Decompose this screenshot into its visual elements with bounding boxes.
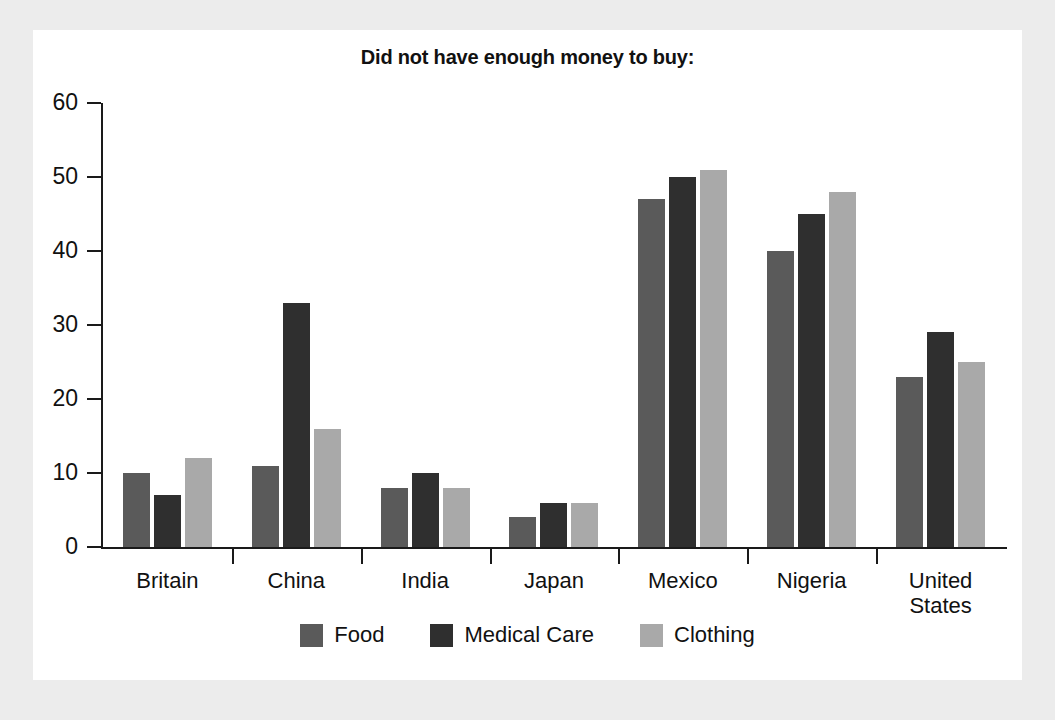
x-axis-label: Japan xyxy=(490,569,619,594)
legend-swatch xyxy=(300,624,323,647)
bar[interactable] xyxy=(669,177,696,547)
plot-area: 0102030405060 BritainChinaIndiaJapanMexi… xyxy=(103,103,1005,547)
bar[interactable] xyxy=(509,517,536,547)
y-axis-tick-label: 20 xyxy=(52,385,78,412)
x-axis-label: Mexico xyxy=(618,569,747,594)
bar[interactable] xyxy=(252,466,279,547)
bar-group xyxy=(747,103,876,547)
x-axis-tick xyxy=(876,547,878,564)
y-axis-tick: 10 xyxy=(87,472,101,474)
bar[interactable] xyxy=(314,429,341,547)
chart-page: Did not have enough money to buy: 010203… xyxy=(0,0,1055,720)
x-axis-label: India xyxy=(361,569,490,594)
bar-group xyxy=(490,103,619,547)
bar[interactable] xyxy=(767,251,794,547)
bar[interactable] xyxy=(381,488,408,547)
bar[interactable] xyxy=(540,503,567,547)
bar[interactable] xyxy=(700,170,727,547)
legend-item[interactable]: Clothing xyxy=(640,622,755,648)
y-axis-tick: 30 xyxy=(87,324,101,326)
y-axis-tick-label: 30 xyxy=(52,311,78,338)
bar[interactable] xyxy=(185,458,212,547)
x-axis-label-line2: States xyxy=(909,593,971,618)
y-axis-tick: 20 xyxy=(87,398,101,400)
legend-item[interactable]: Food xyxy=(300,622,384,648)
bar-group xyxy=(618,103,747,547)
x-axis-tick xyxy=(747,547,749,564)
bar[interactable] xyxy=(798,214,825,547)
x-axis-line xyxy=(101,547,1007,549)
bar[interactable] xyxy=(896,377,923,547)
legend-label: Food xyxy=(334,622,384,648)
legend-label: Clothing xyxy=(674,622,755,648)
chart-legend: FoodMedical CareClothing xyxy=(33,622,1022,648)
bar-group xyxy=(361,103,490,547)
bar[interactable] xyxy=(829,192,856,547)
legend-label: Medical Care xyxy=(464,622,594,648)
x-axis-tick xyxy=(361,547,363,564)
legend-item[interactable]: Medical Care xyxy=(430,622,594,648)
bar[interactable] xyxy=(154,495,181,547)
chart-card: Did not have enough money to buy: 010203… xyxy=(33,30,1022,680)
y-axis-tick-label: 40 xyxy=(52,237,78,264)
bar[interactable] xyxy=(123,473,150,547)
y-axis-tick-label: 10 xyxy=(52,459,78,486)
legend-swatch xyxy=(640,624,663,647)
x-axis-label: China xyxy=(232,569,361,594)
bar[interactable] xyxy=(571,503,598,547)
y-axis-tick: 50 xyxy=(87,176,101,178)
bar[interactable] xyxy=(412,473,439,547)
x-axis-tick xyxy=(490,547,492,564)
bar-group xyxy=(232,103,361,547)
y-axis-tick-label: 50 xyxy=(52,163,78,190)
bar[interactable] xyxy=(958,362,985,547)
bar[interactable] xyxy=(927,332,954,547)
x-axis-tick xyxy=(232,547,234,564)
x-axis-tick xyxy=(618,547,620,564)
x-axis-label: UnitedStates xyxy=(876,569,1005,618)
legend-swatch xyxy=(430,624,453,647)
y-axis-tick: 60 xyxy=(87,102,101,104)
x-axis-label: Nigeria xyxy=(747,569,876,594)
y-axis-tick: 0 xyxy=(87,546,101,548)
y-axis-tick-label: 0 xyxy=(65,533,78,560)
chart-title: Did not have enough money to buy: xyxy=(33,46,1022,69)
y-axis-tick: 40 xyxy=(87,250,101,252)
bar[interactable] xyxy=(443,488,470,547)
bar[interactable] xyxy=(638,199,665,547)
bar[interactable] xyxy=(283,303,310,547)
x-axis-label: Britain xyxy=(103,569,232,594)
y-axis-tick-label: 60 xyxy=(52,89,78,116)
bar-group xyxy=(103,103,232,547)
bar-group xyxy=(876,103,1005,547)
